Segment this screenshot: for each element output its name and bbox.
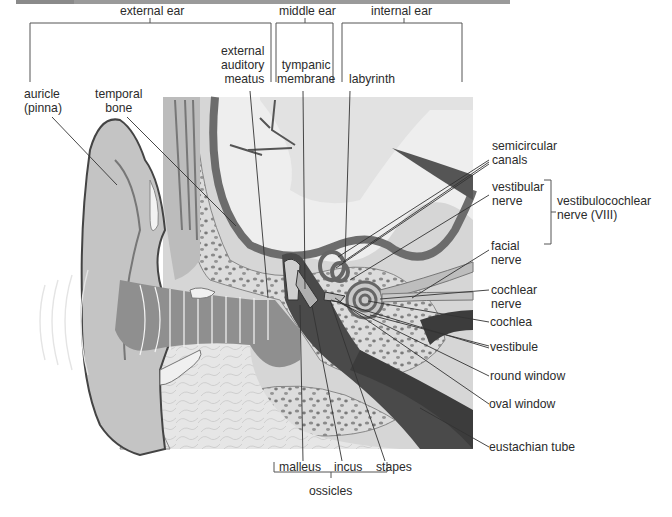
label-temporal-line2: bone — [95, 101, 142, 115]
label-eustachian-tube: eustachian tube — [489, 440, 575, 454]
label-semicircular-line2: canals — [492, 153, 557, 167]
label-vestibulocochlear-nerve: vestibulocochlear nerve (VIII) — [557, 194, 651, 222]
label-auricle-line2: (pinna) — [24, 101, 62, 115]
cochlea-spiral — [347, 282, 383, 318]
label-auricle-line1: auricle — [24, 87, 62, 101]
label-vestibular-nerve: vestibular nerve — [492, 180, 544, 208]
label-auricle: auricle (pinna) — [24, 87, 62, 115]
label-middle-ear: middle ear — [279, 4, 336, 18]
label-tympanic-line1: tympanic — [277, 58, 335, 72]
label-semicircular-line1: semicircular — [492, 139, 557, 153]
label-cochlear-line1: cochlear — [491, 283, 537, 297]
label-external-auditory-meatus: external auditory meatus — [221, 44, 264, 86]
label-vestibular-line2: nerve — [492, 194, 544, 208]
label-vestibulocochlear-line2: nerve (VIII) — [557, 208, 651, 222]
label-facial-nerve: facial nerve — [491, 239, 522, 267]
label-incus: incus — [334, 460, 362, 474]
label-vestibule: vestibule — [490, 340, 538, 354]
label-facial-line1: facial — [491, 239, 522, 253]
label-eam-line1: external — [221, 44, 264, 58]
label-facial-line2: nerve — [491, 253, 522, 267]
label-temporal-bone: temporal bone — [95, 87, 142, 115]
label-vestibular-line1: vestibular — [492, 180, 544, 194]
label-internal-ear: internal ear — [371, 4, 432, 18]
label-eam-line2: auditory — [221, 58, 264, 72]
label-semicircular-canals: semicircular canals — [492, 139, 557, 167]
label-cochlea: cochlea — [490, 315, 532, 329]
label-vestibulocochlear-line1: vestibulocochlear — [557, 194, 651, 208]
label-eam-line3: meatus — [221, 72, 264, 86]
label-labyrinth: labyrinth — [349, 72, 395, 86]
label-cochlear-line2: nerve — [491, 297, 537, 311]
label-temporal-line1: temporal — [95, 87, 142, 101]
label-round-window: round window — [490, 369, 565, 383]
label-ossicles: ossicles — [309, 484, 352, 498]
label-tympanic-membrane: tympanic membrane — [277, 58, 335, 86]
label-external-ear: external ear — [120, 4, 184, 18]
label-oval-window: oval window — [489, 397, 555, 411]
label-malleus: malleus — [279, 460, 321, 474]
label-tympanic-line2: membrane — [277, 72, 335, 86]
label-stapes: stapes — [376, 460, 412, 474]
label-cochlear-nerve: cochlear nerve — [491, 283, 537, 311]
vestibulocochlear-bracket — [544, 180, 556, 244]
